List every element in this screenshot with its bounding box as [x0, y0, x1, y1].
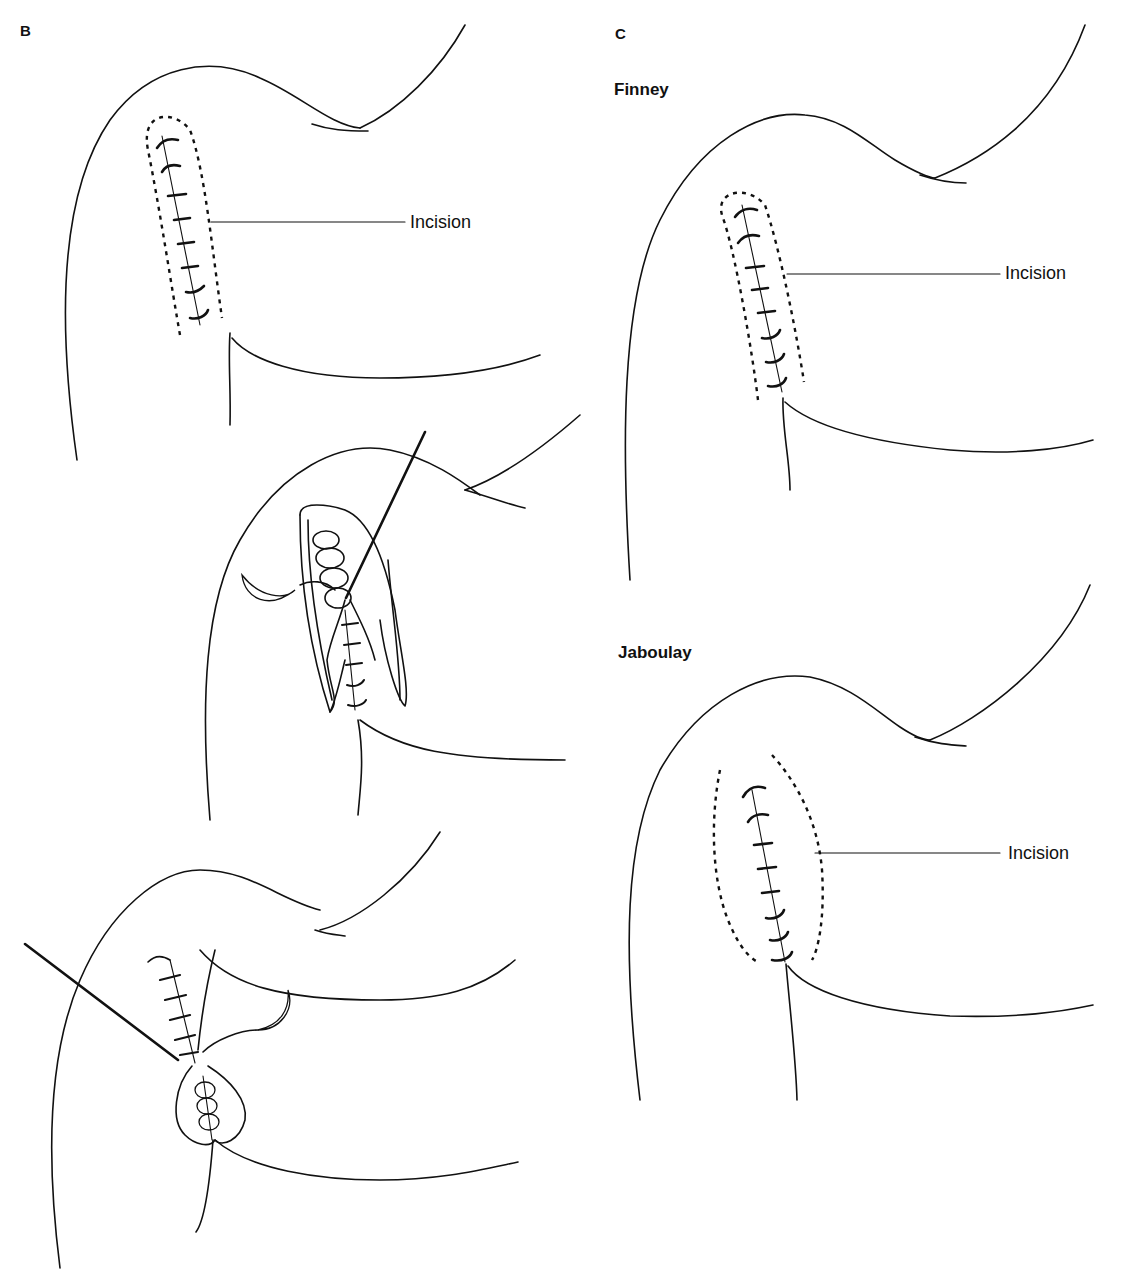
panel-b-figure-3 [25, 832, 518, 1268]
incision-label-b: Incision [410, 212, 471, 233]
section-title-jaboulay: Jaboulay [618, 643, 692, 663]
panel-b-figure-1 [65, 25, 540, 460]
section-title-finney: Finney [614, 80, 669, 100]
panel-letter-b: B [20, 22, 31, 39]
panel-c-finney [625, 25, 1093, 580]
panel-b-figure-2 [205, 415, 580, 820]
incision-label-finney: Incision [1005, 263, 1066, 284]
panel-letter-c: C [615, 25, 626, 42]
incision-label-jaboulay: Incision [1008, 843, 1069, 864]
surgical-illustration [0, 0, 1124, 1288]
